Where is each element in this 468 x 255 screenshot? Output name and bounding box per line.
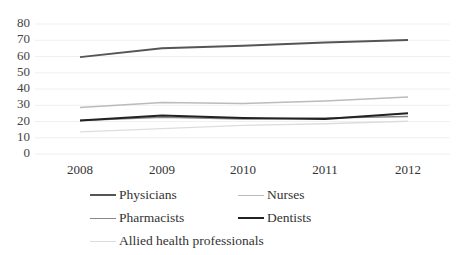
legend-swatch-physicians: [90, 194, 116, 196]
legend-item-pharmacists: Pharmacists: [90, 210, 184, 226]
legend-swatch-dentists: [238, 217, 264, 219]
legend-label: Dentists: [267, 210, 311, 226]
y-tick-label: 40: [4, 81, 30, 95]
y-tick-label: 80: [4, 16, 30, 30]
y-tick-label: 0: [4, 146, 30, 160]
y-tick-label: 50: [4, 65, 30, 79]
series-line-physicians: [80, 40, 408, 57]
x-tick-label: 2010: [218, 162, 268, 178]
legend-swatch-pharmacists: [90, 218, 116, 219]
legend-label: Pharmacists: [119, 210, 184, 226]
series-lines: [80, 40, 408, 132]
y-tick-label: 60: [4, 49, 30, 63]
gridlines: [35, 24, 450, 154]
legend-swatch-nurses: [238, 195, 264, 196]
legend-item-allied: Allied health professionals: [90, 233, 264, 249]
legend-label: Nurses: [267, 187, 305, 203]
legend-label: Physicians: [119, 187, 177, 203]
legend-item-nurses: Nurses: [238, 187, 305, 203]
series-line-allied-health-professionals: [80, 121, 408, 132]
legend-item-physicians: Physicians: [90, 187, 177, 203]
series-line-nurses: [80, 97, 408, 108]
legend-item-dentists: Dentists: [238, 210, 311, 226]
legend-label: Allied health professionals: [119, 233, 264, 249]
y-tick-label: 20: [4, 114, 30, 128]
y-tick-label: 70: [4, 32, 30, 46]
y-tick-label: 30: [4, 97, 30, 111]
x-tick-label: 2008: [55, 162, 105, 178]
x-tick-label: 2012: [383, 162, 433, 178]
x-tick-label: 2011: [300, 162, 350, 178]
y-tick-label: 10: [4, 130, 30, 144]
x-tick-label: 2009: [137, 162, 187, 178]
legend-swatch-allied: [90, 241, 116, 242]
line-chart-plot: [0, 0, 468, 180]
